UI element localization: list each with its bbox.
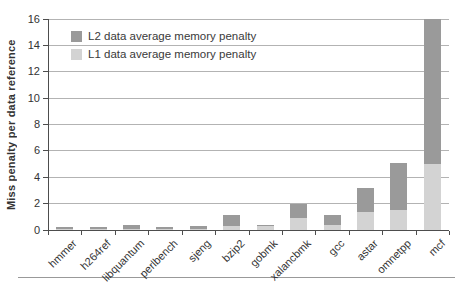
x-tick-label-bzip2: bzip2 bbox=[219, 237, 246, 264]
x-axis-tick bbox=[349, 231, 350, 235]
y-tick-label: 16 bbox=[10, 14, 40, 25]
bar-segment-gobmk bbox=[257, 225, 274, 226]
y-tick-label: 0 bbox=[10, 225, 40, 236]
x-axis-tick bbox=[215, 231, 216, 235]
x-axis-tick bbox=[115, 231, 116, 235]
x-axis-tick bbox=[282, 231, 283, 235]
legend-swatch-l2-icon bbox=[71, 31, 82, 42]
gridline-y8 bbox=[48, 124, 449, 125]
bar-segment-mcf bbox=[424, 19, 441, 164]
x-tick-label-omnetpp: omnetpp bbox=[375, 237, 414, 276]
x-tick-label-gobmk: gobmk bbox=[248, 237, 280, 269]
bar-segment-astar bbox=[357, 188, 374, 211]
y-tick-label: 12 bbox=[10, 66, 40, 77]
x-tick-label-hmmer: hmmer bbox=[47, 237, 80, 270]
y-tick-label: 6 bbox=[10, 145, 40, 156]
x-axis-tick bbox=[249, 231, 250, 235]
y-tick-label: 8 bbox=[10, 119, 40, 130]
gridline-y2 bbox=[48, 203, 449, 204]
bar-segment-omnetpp bbox=[390, 210, 407, 230]
bar-segment-sjeng bbox=[190, 226, 207, 229]
x-tick-label-mcf: mcf bbox=[426, 237, 447, 258]
legend-swatch-l1-icon bbox=[71, 49, 82, 60]
chart-legend: L2 data average memory penalty L1 data a… bbox=[71, 27, 256, 63]
x-axis-tick bbox=[315, 231, 316, 235]
x-axis-tick bbox=[148, 231, 149, 235]
x-axis-tick bbox=[382, 231, 383, 235]
x-axis-line bbox=[48, 230, 449, 231]
chart-figure: Miss penalty per data reference L2 data … bbox=[0, 0, 457, 292]
bar-segment-omnetpp bbox=[390, 163, 407, 210]
bar-segment-xalancbmk bbox=[290, 218, 307, 230]
legend-label-l1: L1 data average memory penalty bbox=[88, 48, 256, 60]
x-tick-label-gcc: gcc bbox=[326, 237, 347, 258]
gridline-y16 bbox=[48, 19, 449, 20]
legend-item-l2: L2 data average memory penalty bbox=[71, 27, 256, 45]
x-axis-tick bbox=[449, 231, 450, 235]
x-tick-label-sjeng: sjeng bbox=[186, 237, 213, 264]
y-tick-label: 4 bbox=[10, 172, 40, 183]
x-axis-tick bbox=[48, 231, 49, 235]
gridline-y10 bbox=[48, 98, 449, 99]
bar-segment-astar bbox=[357, 212, 374, 230]
y-tick-label: 14 bbox=[10, 40, 40, 51]
bar-segment-bzip2 bbox=[223, 215, 240, 226]
y-axis-line bbox=[48, 19, 49, 230]
y-tick-label: 10 bbox=[10, 93, 40, 104]
gridline-y4 bbox=[48, 177, 449, 178]
legend-label-l2: L2 data average memory penalty bbox=[88, 30, 256, 42]
x-axis-tick bbox=[182, 231, 183, 235]
bar-segment-gcc bbox=[324, 215, 341, 226]
gridline-y6 bbox=[48, 150, 449, 151]
figure-bottom-rule bbox=[18, 277, 455, 278]
legend-item-l1: L1 data average memory penalty bbox=[71, 45, 256, 63]
y-tick-label: 2 bbox=[10, 198, 40, 209]
x-tick-label-astar: astar bbox=[354, 237, 380, 263]
gridline-y12 bbox=[48, 71, 449, 72]
x-axis-tick bbox=[416, 231, 417, 235]
bar-segment-xalancbmk bbox=[290, 204, 307, 219]
bar-segment-mcf bbox=[424, 164, 441, 230]
x-axis-tick bbox=[81, 231, 82, 235]
